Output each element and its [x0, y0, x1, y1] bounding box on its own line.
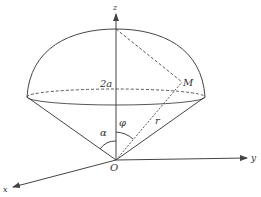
- z-axis-label: z: [112, 3, 118, 12]
- phi-label: φ: [119, 117, 126, 128]
- height-label: 2a: [99, 78, 112, 89]
- angle-phi-arc: [116, 132, 133, 139]
- top-to-m-dashed: [116, 29, 182, 82]
- alpha-label: α: [100, 127, 107, 138]
- radius-label: r: [155, 115, 161, 126]
- x-axis: [13, 160, 116, 187]
- cone-right-edge: [116, 97, 205, 160]
- y-axis: [116, 158, 247, 160]
- angle-alpha-arc: [100, 141, 116, 149]
- cone-sphere-diagram: z y x O M 2a α φ r: [0, 0, 261, 197]
- origin-label: O: [110, 162, 118, 173]
- x-axis-label: x: [3, 185, 8, 194]
- y-axis-label: y: [250, 153, 257, 163]
- point-m-label: M: [182, 77, 194, 88]
